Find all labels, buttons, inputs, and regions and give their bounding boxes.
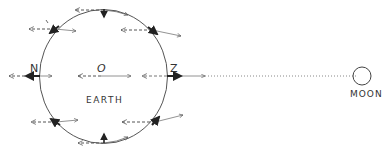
o-label: O <box>97 62 106 75</box>
upper-left-solid-arrow <box>55 29 76 31</box>
tidal-force-diagram: MOON N O Z EARTH <box>0 0 382 154</box>
z-label: Z <box>170 62 178 75</box>
upper-left-tick <box>46 20 48 23</box>
lower-left-solid-arrow <box>56 120 78 122</box>
moon-label: MOON <box>350 89 382 99</box>
earth-label: EARTH <box>86 95 123 105</box>
lower-right-solid-arrow <box>155 115 183 122</box>
n-label: N <box>30 62 38 75</box>
